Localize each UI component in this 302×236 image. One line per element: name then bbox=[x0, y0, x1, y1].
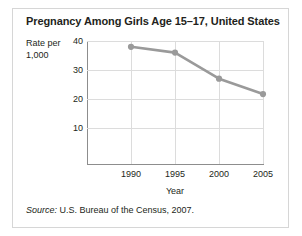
data-point-1995 bbox=[172, 50, 178, 56]
x-tick-label-1990: 1990 bbox=[111, 169, 151, 179]
plot-area bbox=[87, 41, 263, 164]
y-tick-label-30: 30 bbox=[61, 66, 83, 75]
y-tick-label-20: 20 bbox=[61, 95, 83, 104]
x-tick-label-1995: 1995 bbox=[155, 169, 195, 179]
x-tick-label-2005: 2005 bbox=[243, 169, 283, 179]
x-tick-label-2000: 2000 bbox=[199, 169, 239, 179]
x-axis-tick-labels: 1990 1995 2000 2005 bbox=[87, 169, 263, 181]
chart-plot-wrapper: Rate per 1,000 40 30 20 10 199 bbox=[13, 9, 290, 229]
gridline-x-2005 bbox=[263, 41, 264, 164]
data-series-line bbox=[87, 41, 263, 164]
series-polyline bbox=[131, 47, 263, 94]
y-tick-label-10: 10 bbox=[61, 124, 83, 133]
x-axis-title: Year bbox=[87, 186, 263, 196]
y-tick-label-40: 40 bbox=[61, 37, 83, 46]
data-point-2000 bbox=[216, 76, 222, 82]
data-point-2005 bbox=[260, 91, 266, 97]
x-axis-line bbox=[87, 164, 264, 165]
source-label: Source: bbox=[26, 205, 57, 215]
source-text: U.S. Bureau of the Census, 2007. bbox=[57, 205, 194, 215]
y-axis-tick-labels: 40 30 20 10 bbox=[57, 41, 83, 164]
data-point-1990 bbox=[128, 44, 134, 50]
source-note: Source: U.S. Bureau of the Census, 2007. bbox=[26, 205, 194, 215]
figure-panel: Pregnancy Among Girls Age 15–17, United … bbox=[12, 8, 289, 228]
